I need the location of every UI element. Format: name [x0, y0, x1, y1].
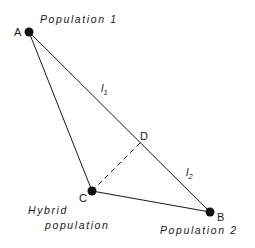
edge-a-c — [29, 32, 92, 191]
edge-c-d-dashed — [92, 143, 140, 191]
point-a-label: A — [14, 26, 22, 38]
point-b-label: B — [217, 211, 224, 223]
triangle-diagram: A B C D Population 1 Population 2 Hybrid… — [0, 0, 255, 248]
hybrid-population-diagram: A B C D Population 1 Population 2 Hybrid… — [0, 0, 255, 248]
segment-l2-subscript: 2 — [187, 172, 193, 181]
point-d-label: D — [140, 130, 148, 142]
hybrid-label-line1: Hybrid — [28, 204, 68, 216]
point-a-dot — [25, 28, 34, 37]
segment-l2-label: l2 — [186, 166, 193, 181]
segment-l1-label: l1 — [101, 82, 108, 97]
point-c-dot — [88, 187, 97, 196]
point-b-dot — [206, 208, 215, 217]
edge-a-b — [29, 32, 210, 212]
segment-l1-subscript: 1 — [103, 88, 107, 97]
point-c-label: C — [79, 192, 87, 204]
hybrid-label-line2: population — [44, 219, 109, 231]
population-2-label: Population 2 — [160, 224, 238, 236]
population-1-label: Population 1 — [40, 13, 118, 25]
